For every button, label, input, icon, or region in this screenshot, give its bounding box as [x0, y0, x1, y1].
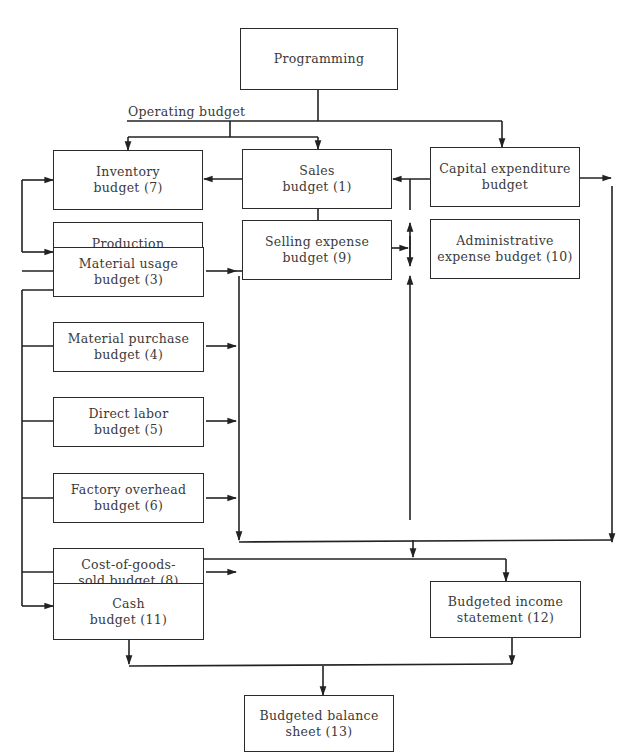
factory-overhead-line2: budget (6) [94, 498, 163, 514]
material-purchase-budget-box: Material purchase budget (4) [53, 322, 204, 372]
selling-budget-line1: Selling expense [265, 234, 369, 250]
material-usage-budget-box: Material usage budget (3) [53, 247, 204, 297]
cash-budget-line1: Cash [112, 596, 145, 612]
selling-budget-line2: budget (9) [282, 250, 351, 266]
balance-sheet-line1: Budgeted balance [259, 708, 378, 724]
selling-expense-budget-box: Selling expense budget (9) [242, 220, 392, 280]
direct-labor-line2: budget (5) [94, 422, 163, 438]
capital-budget-line2: budget [482, 177, 528, 193]
cash-budget-box: Cash budget (11) [53, 583, 204, 640]
cash-budget-line2: budget (11) [90, 612, 167, 628]
budgeted-balance-sheet-box: Budgeted balance sheet (13) [244, 695, 394, 752]
factory-overhead-budget-box: Factory overhead budget (6) [53, 473, 204, 523]
inventory-budget-box: Inventory budget (7) [53, 150, 203, 210]
connector-lines [0, 0, 632, 754]
capital-budget-line1: Capital expenditure [439, 161, 571, 177]
material-purchase-line2: budget (4) [94, 347, 163, 363]
material-usage-line2: budget (3) [94, 272, 163, 288]
sales-budget-line1: Sales [299, 163, 334, 179]
administrative-budget-line2: expense budget (10) [437, 249, 573, 265]
income-statement-line2: statement (12) [457, 610, 554, 626]
balance-sheet-line2: sheet (13) [286, 724, 353, 740]
direct-labor-budget-box: Direct labor budget (5) [53, 397, 204, 447]
income-statement-line1: Budgeted income [448, 594, 563, 610]
programming-label: Programming [274, 51, 364, 67]
operating-budget-label: Operating budget [128, 104, 245, 119]
direct-labor-line1: Direct labor [89, 406, 169, 422]
inventory-budget-line1: Inventory [96, 164, 160, 180]
capital-expenditure-budget-box: Capital expenditure budget [430, 147, 580, 207]
budgeted-income-statement-box: Budgeted income statement (12) [430, 581, 581, 638]
factory-overhead-line1: Factory overhead [71, 482, 187, 498]
cogs-line1: Cost-of-goods- [81, 557, 176, 573]
inventory-budget-line2: budget (7) [93, 180, 162, 196]
sales-budget-line2: budget (1) [282, 179, 351, 195]
administrative-budget-line1: Administrative [456, 233, 553, 249]
programming-box: Programming [240, 28, 398, 90]
material-usage-line1: Material usage [79, 256, 179, 272]
material-purchase-line1: Material purchase [68, 331, 190, 347]
sales-budget-box: Sales budget (1) [242, 149, 392, 209]
administrative-expense-budget-box: Administrative expense budget (10) [430, 219, 580, 279]
